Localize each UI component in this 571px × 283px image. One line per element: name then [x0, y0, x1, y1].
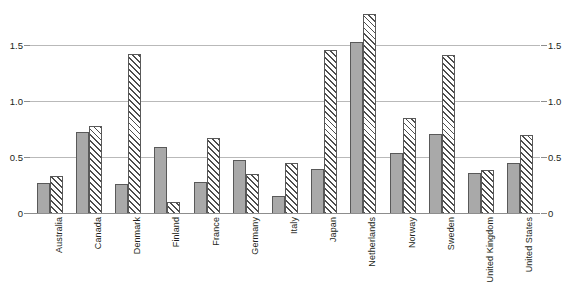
tickmark-right — [541, 213, 547, 214]
bar-series-1 — [194, 182, 207, 213]
x-axis-label: Germany — [250, 217, 260, 255]
tickmark-right — [541, 101, 547, 102]
bar-series-2 — [520, 135, 533, 213]
bar-series-1 — [233, 160, 246, 213]
y-tick-right-1.0: 1.0 — [548, 96, 561, 107]
bar-series-2 — [285, 163, 298, 213]
bar-group — [194, 6, 220, 213]
bar-series-2 — [403, 118, 416, 213]
x-axis-label: United Kingdom — [485, 217, 495, 282]
y-tick-right-0: 0 — [548, 208, 553, 219]
x-axis-label: Italy — [289, 217, 299, 234]
bar-series-1 — [154, 147, 167, 213]
tickmark-left — [24, 45, 30, 46]
tickmark-right — [541, 157, 547, 158]
bar-group — [233, 6, 259, 213]
bar-group — [76, 6, 102, 213]
bar-series-2 — [128, 54, 141, 213]
bar-group — [507, 6, 533, 213]
bar-series-1 — [311, 169, 324, 213]
bar-group — [37, 6, 63, 213]
y-tick-right-1.5: 1.5 — [548, 40, 561, 51]
plot-area — [30, 6, 540, 213]
bar-group — [350, 6, 376, 213]
bar-series-1 — [507, 163, 520, 213]
bar-series-2 — [324, 50, 337, 213]
bar-series-2 — [50, 176, 63, 213]
bar-series-1 — [76, 132, 89, 213]
tickmark-left — [24, 213, 30, 214]
bar-group — [311, 6, 337, 213]
bar-series-1 — [468, 173, 481, 213]
y-tick-left-0.5: 0.5 — [10, 152, 23, 163]
x-axis-label: Australia — [54, 217, 64, 253]
bar-chart: 00.51.01.5 00.51.01.5 AustraliaCanadaDen… — [0, 0, 571, 283]
y-tick-left-0: 0 — [18, 208, 23, 219]
x-axis-label: Finland — [171, 217, 181, 247]
bar-series-1 — [272, 196, 285, 213]
bar-group — [468, 6, 494, 213]
axis-baseline — [30, 213, 540, 214]
y-tick-left-1.5: 1.5 — [10, 40, 23, 51]
bar-series-1 — [390, 153, 403, 213]
tickmark-left — [24, 101, 30, 102]
bar-series-1 — [350, 42, 363, 213]
bar-series-1 — [115, 184, 128, 213]
bar-series-2 — [442, 55, 455, 213]
tickmark-left — [24, 157, 30, 158]
x-axis-label: United States — [524, 217, 534, 272]
bar-series-2 — [207, 138, 220, 213]
x-axis-label: Sweden — [446, 217, 456, 250]
y-tick-left-1.0: 1.0 — [10, 96, 23, 107]
bar-series-2 — [481, 170, 494, 213]
x-axis-label: Netherlands — [367, 217, 377, 267]
bar-series-2 — [167, 202, 180, 213]
bar-group — [154, 6, 180, 213]
bar-series-1 — [37, 183, 50, 213]
bar-series-2 — [363, 14, 376, 213]
x-axis-label: Denmark — [132, 217, 142, 254]
x-axis-label: Japan — [328, 217, 338, 242]
x-axis-label: Norway — [407, 217, 417, 248]
bar-group — [115, 6, 141, 213]
bar-series-2 — [246, 174, 259, 213]
bar-series-1 — [429, 134, 442, 213]
bar-group — [390, 6, 416, 213]
x-axis-label: France — [211, 217, 221, 246]
bar-group — [272, 6, 298, 213]
bar-series-2 — [89, 126, 102, 213]
x-axis-label: Canada — [93, 217, 103, 249]
tickmark-right — [541, 45, 547, 46]
y-tick-right-0.5: 0.5 — [548, 152, 561, 163]
bar-group — [429, 6, 455, 213]
